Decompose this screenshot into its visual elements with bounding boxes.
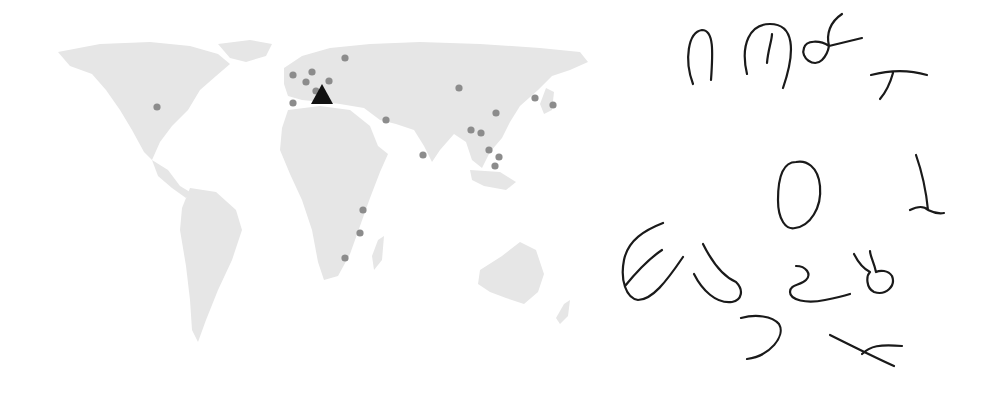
location-dot bbox=[455, 84, 462, 91]
glyph-oval bbox=[778, 162, 820, 229]
world-map-graphic bbox=[40, 30, 600, 370]
location-dot bbox=[531, 94, 538, 101]
location-dot bbox=[153, 103, 160, 110]
location-dot bbox=[308, 68, 315, 75]
location-dot bbox=[419, 151, 426, 158]
location-dot bbox=[477, 129, 484, 136]
glyph-double-arch bbox=[745, 24, 791, 88]
glyph-k bbox=[830, 335, 902, 366]
handwritten-glyphs bbox=[600, 0, 992, 393]
glyph-inverted-t bbox=[910, 155, 944, 213]
location-dot bbox=[492, 109, 499, 116]
location-dot bbox=[325, 77, 332, 84]
world-map bbox=[40, 30, 600, 370]
glyph-arch bbox=[688, 30, 712, 84]
glyph-strokes bbox=[600, 0, 992, 393]
glyph-e bbox=[623, 223, 683, 300]
location-dot bbox=[302, 78, 309, 85]
location-dot bbox=[382, 116, 389, 123]
glyph-loop-tick bbox=[803, 14, 862, 63]
location-dot bbox=[485, 146, 492, 153]
glyph-reverse-c bbox=[741, 316, 781, 359]
location-dot bbox=[356, 229, 363, 236]
location-dot bbox=[359, 206, 366, 213]
location-dot bbox=[289, 71, 296, 78]
location-dot bbox=[495, 153, 502, 160]
glyph-b bbox=[854, 251, 893, 293]
location-dot bbox=[491, 162, 498, 169]
location-dot bbox=[549, 101, 556, 108]
location-dot bbox=[341, 54, 348, 61]
location-dot bbox=[289, 99, 296, 106]
glyph-t bbox=[871, 71, 927, 99]
landmass bbox=[58, 40, 588, 342]
location-dot bbox=[341, 254, 348, 261]
location-dot bbox=[467, 126, 474, 133]
glyph-u bbox=[694, 244, 741, 302]
glyph-z bbox=[790, 266, 850, 302]
